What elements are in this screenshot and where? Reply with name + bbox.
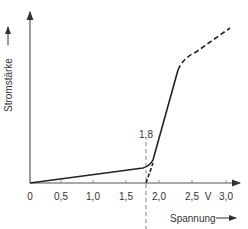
- x-tick-4: 2,0: [152, 191, 166, 202]
- x-tick-3: 1,5: [119, 191, 133, 202]
- threshold-label: 1,8: [139, 129, 153, 140]
- x-tick-2: 1,0: [86, 191, 100, 202]
- x-tick-5: 2,5: [185, 191, 199, 202]
- x-tick-6: 3,0: [219, 191, 233, 202]
- x-unit: V: [205, 191, 212, 202]
- curve-solid: [30, 70, 178, 183]
- curve-dashed: [178, 28, 230, 70]
- chart: 0 0,5 1,0 1,5 2,0 2,5 V 3,0 1,8 Spannung…: [0, 0, 248, 229]
- x-tick-1: 0,5: [54, 191, 68, 202]
- y-axis-label: Stromstärke: [3, 58, 14, 112]
- x-axis-label: Spannung: [170, 213, 216, 224]
- x-tick-0: 0: [27, 191, 33, 202]
